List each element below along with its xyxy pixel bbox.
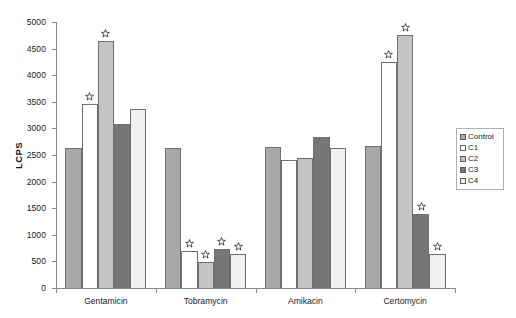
bar bbox=[381, 62, 397, 288]
legend-swatch bbox=[460, 134, 466, 140]
bar bbox=[65, 148, 81, 288]
x-axis-group-label: Gentamicin bbox=[56, 296, 156, 306]
y-tick-label: 3000 bbox=[0, 124, 46, 133]
y-tick-mark bbox=[52, 182, 57, 183]
y-tick-label: 500 bbox=[0, 257, 46, 266]
bar bbox=[313, 137, 329, 288]
significance-star-icon bbox=[384, 50, 393, 59]
y-tick-mark bbox=[52, 102, 57, 103]
significance-star-icon bbox=[217, 237, 226, 246]
significance-star-icon bbox=[433, 242, 442, 251]
bar bbox=[413, 214, 429, 288]
legend-swatch bbox=[460, 145, 466, 151]
bar bbox=[165, 148, 181, 288]
bar bbox=[114, 124, 130, 288]
y-tick-mark bbox=[52, 261, 57, 262]
y-tick-label: 0 bbox=[0, 284, 46, 293]
bar bbox=[397, 35, 413, 288]
x-tick-mark bbox=[156, 288, 157, 293]
x-axis-group-label: Certomycin bbox=[355, 296, 455, 306]
x-tick-mark bbox=[355, 288, 356, 293]
significance-star-icon bbox=[401, 23, 410, 32]
y-tick-label: 1000 bbox=[0, 231, 46, 240]
bar bbox=[265, 147, 281, 288]
bar bbox=[330, 148, 346, 288]
significance-star-icon bbox=[201, 250, 210, 259]
y-tick-mark bbox=[52, 75, 57, 76]
bar bbox=[214, 249, 230, 288]
bar bbox=[281, 160, 297, 288]
x-tick-mark bbox=[455, 288, 456, 293]
bar-chart: LCPS 05001000150020002500300035004000450… bbox=[0, 0, 516, 318]
bar bbox=[82, 104, 98, 288]
bar bbox=[130, 109, 146, 288]
significance-star-icon bbox=[417, 202, 426, 211]
legend-swatch bbox=[460, 167, 466, 173]
legend-item: C3 bbox=[460, 165, 500, 175]
y-tick-label: 2500 bbox=[0, 151, 46, 160]
legend-label: C4 bbox=[468, 177, 478, 185]
legend-label: C1 bbox=[468, 144, 478, 152]
x-axis-group-label: Tobramycin bbox=[156, 296, 256, 306]
bar bbox=[98, 41, 114, 288]
legend: ControlC1C2C3C4 bbox=[456, 128, 504, 190]
legend-label: Control bbox=[468, 133, 494, 141]
legend-item: C1 bbox=[460, 143, 500, 153]
legend-item: C4 bbox=[460, 176, 500, 186]
significance-star-icon bbox=[101, 29, 110, 38]
x-tick-mark bbox=[256, 288, 257, 293]
bar bbox=[365, 146, 381, 288]
y-tick-mark bbox=[52, 235, 57, 236]
legend-label: C3 bbox=[468, 166, 478, 174]
bar bbox=[230, 254, 246, 288]
y-tick-label: 4000 bbox=[0, 71, 46, 80]
bar bbox=[297, 158, 313, 288]
y-tick-mark bbox=[52, 22, 57, 23]
legend-item: C2 bbox=[460, 154, 500, 164]
y-tick-mark bbox=[52, 49, 57, 50]
bar bbox=[198, 262, 214, 288]
x-tick-mark bbox=[56, 288, 57, 293]
significance-star-icon bbox=[234, 242, 243, 251]
y-tick-label: 3500 bbox=[0, 98, 46, 107]
y-tick-mark bbox=[52, 128, 57, 129]
y-tick-mark bbox=[52, 155, 57, 156]
x-axis-group-label: Amikacin bbox=[256, 296, 356, 306]
bar bbox=[429, 254, 445, 288]
y-tick-label: 5000 bbox=[0, 18, 46, 27]
legend-label: C2 bbox=[468, 155, 478, 163]
significance-star-icon bbox=[185, 239, 194, 248]
y-tick-label: 1500 bbox=[0, 204, 46, 213]
y-tick-label: 4500 bbox=[0, 45, 46, 54]
legend-swatch bbox=[460, 178, 466, 184]
bar bbox=[181, 251, 197, 288]
legend-item: Control bbox=[460, 132, 500, 142]
y-tick-mark bbox=[52, 208, 57, 209]
legend-swatch bbox=[460, 156, 466, 162]
y-tick-label: 2000 bbox=[0, 178, 46, 187]
significance-star-icon bbox=[85, 92, 94, 101]
